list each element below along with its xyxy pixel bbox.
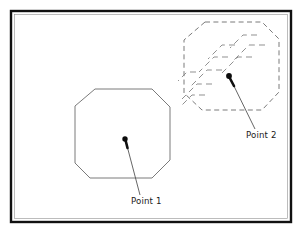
diagram-canvas: Point 1 Point 2	[0, 0, 303, 234]
point-2-label: Point 2	[246, 131, 277, 140]
point-1-dot	[122, 136, 127, 141]
point-2-dot	[226, 73, 232, 79]
point-1-label: Point 1	[131, 197, 162, 206]
